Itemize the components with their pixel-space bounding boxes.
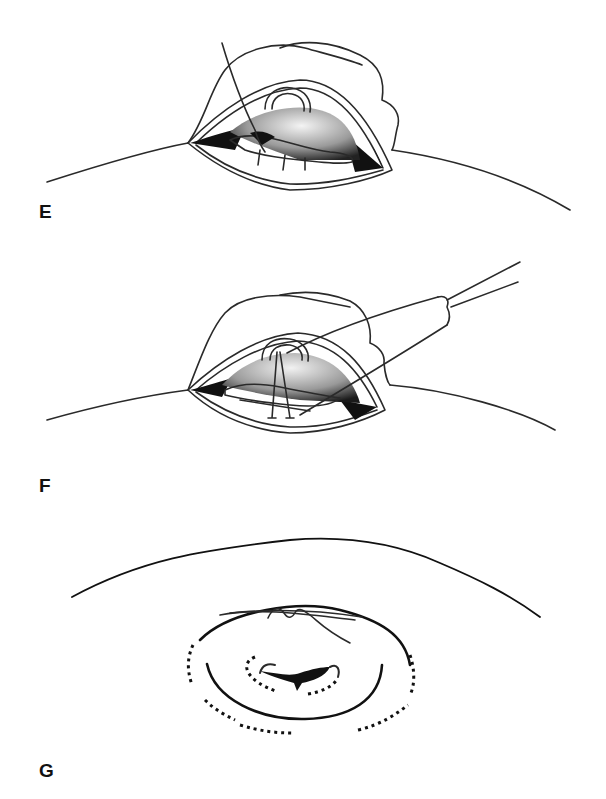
panel-e-illustration — [0, 0, 606, 235]
panel-e: E — [0, 0, 606, 235]
panel-g-illustration — [0, 505, 606, 799]
panel-g: G — [0, 505, 606, 799]
panel-f-illustration — [0, 235, 606, 505]
panel-label-f: F — [39, 475, 51, 497]
panel-label-e: E — [39, 201, 52, 223]
panel-label-g: G — [39, 760, 54, 782]
panel-f: F — [0, 235, 606, 505]
